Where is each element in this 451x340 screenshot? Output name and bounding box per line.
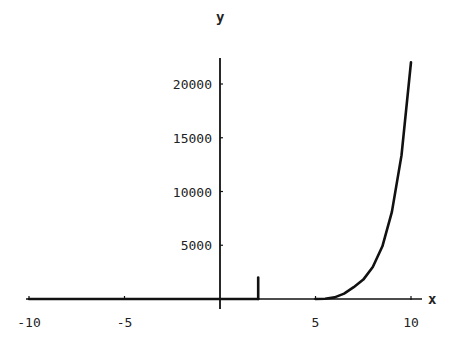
y-tick-label: 5000 [181, 238, 212, 253]
x-tick-label: -5 [117, 315, 133, 330]
y-tick-label: 10000 [173, 185, 212, 200]
chart: -10-55105000100001500020000 y x [0, 0, 451, 340]
y-tick-label: 20000 [173, 77, 212, 92]
x-axis-label: x [428, 291, 437, 307]
x-tick-label: -10 [17, 315, 40, 330]
axes [26, 58, 422, 309]
x-tick-label: 5 [312, 315, 320, 330]
x-tick-label: 10 [403, 315, 419, 330]
curve-segment [316, 62, 412, 299]
y-tick-label: 15000 [173, 131, 212, 146]
ticks: -10-55105000100001500020000 [17, 77, 419, 330]
y-axis-label: y [216, 9, 225, 25]
